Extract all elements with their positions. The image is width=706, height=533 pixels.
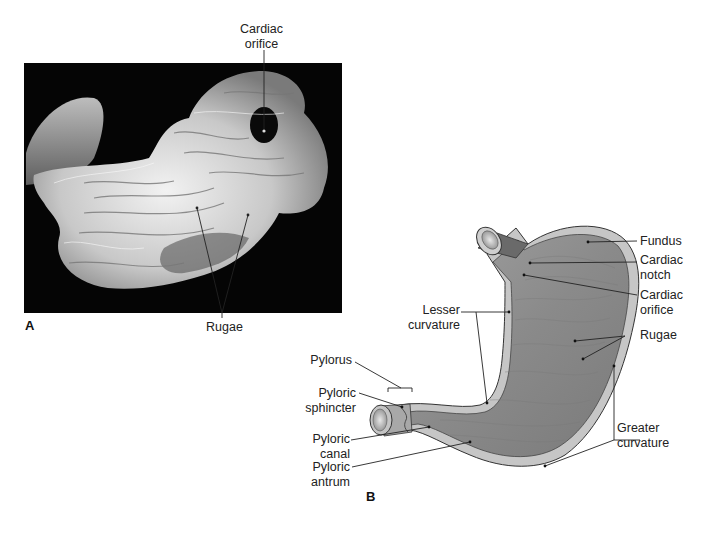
label-rugae-a: Rugae: [206, 320, 243, 335]
panel-letter-b: B: [366, 489, 375, 504]
label-line: notch: [640, 268, 683, 283]
label-line: sphincter: [290, 401, 356, 416]
label-pyloric-sphincter: Pyloric sphincter: [290, 386, 356, 416]
label-cardiac-orifice-b: Cardiac orifice: [640, 288, 683, 318]
label-greater-curvature: Greater curvature: [617, 421, 669, 451]
label-pylorus: Pylorus: [290, 353, 352, 368]
label-line: Pyloric: [290, 386, 356, 401]
label-line: orifice: [240, 37, 283, 52]
label-line: Cardiac: [640, 253, 683, 268]
panel-letter-a: A: [25, 318, 34, 333]
label-line: Cardiac: [640, 288, 683, 303]
label-rugae-b: Rugae: [640, 328, 677, 343]
label-pyloric-canal: Pyloric canal: [290, 432, 350, 462]
label-pyloric-antrum: Pyloric antrum: [290, 460, 350, 490]
leader-lines-and-diagram: [0, 0, 706, 533]
label-cardiac-orifice-a: Cardiac orifice: [240, 22, 283, 52]
label-line: curvature: [617, 436, 669, 451]
label-line: Pyloric: [290, 460, 350, 475]
label-fundus: Fundus: [640, 234, 682, 249]
label-cardiac-notch: Cardiac notch: [640, 253, 683, 283]
label-lesser-curvature: Lesser curvature: [398, 303, 460, 333]
label-line: Lesser: [398, 303, 460, 318]
label-line: Pyloric: [290, 432, 350, 447]
label-line: Cardiac: [240, 22, 283, 37]
label-line: orifice: [640, 303, 683, 318]
label-line: Greater: [617, 421, 669, 436]
cardiac-orifice-marker-a: [262, 129, 265, 132]
label-line: curvature: [398, 318, 460, 333]
label-line: antrum: [290, 475, 350, 490]
panel-a-leader-lines: [197, 50, 264, 318]
